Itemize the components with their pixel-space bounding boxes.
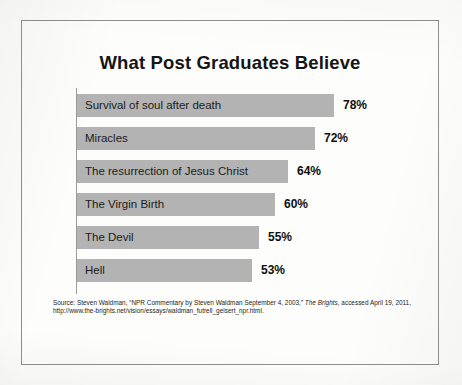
bar-category-label: The resurrection of Jesus Christ — [85, 160, 248, 183]
bar-row: Miracles 72% — [77, 127, 315, 150]
bar-row: The resurrection of Jesus Christ 64% — [77, 160, 288, 183]
bar-category-label: The Devil — [85, 226, 134, 249]
source-citation: Source: Steven Waldman, “NPR Commentary … — [53, 299, 415, 316]
bar-row: Hell 53% — [77, 259, 252, 282]
bar-category-label: Miracles — [85, 127, 128, 150]
bar-value-label: 78% — [343, 94, 367, 117]
bar-value-label: 72% — [324, 127, 348, 150]
bar-chart: Survival of soul after death 78% Miracle… — [76, 92, 406, 290]
bar-category-label: Survival of soul after death — [85, 94, 221, 117]
bar-category-label: The Virgin Birth — [85, 193, 164, 216]
bar-category-label: Hell — [85, 259, 105, 282]
bar-row: Survival of soul after death 78% — [77, 94, 334, 117]
bar-row: The Virgin Birth 60% — [77, 193, 275, 216]
source-text-part1: Source: Steven Waldman, “NPR Commentary … — [53, 299, 305, 306]
bar-value-label: 60% — [284, 193, 308, 216]
page-title: What Post Graduates Believe — [21, 52, 439, 74]
source-publication-name: The Brights — [305, 299, 338, 306]
slide-page: What Post Graduates Believe Survival of … — [0, 0, 462, 385]
bar-value-label: 53% — [261, 259, 285, 282]
bar-value-label: 64% — [297, 160, 321, 183]
bar-value-label: 55% — [268, 226, 292, 249]
bar-row: The Devil 55% — [77, 226, 259, 249]
